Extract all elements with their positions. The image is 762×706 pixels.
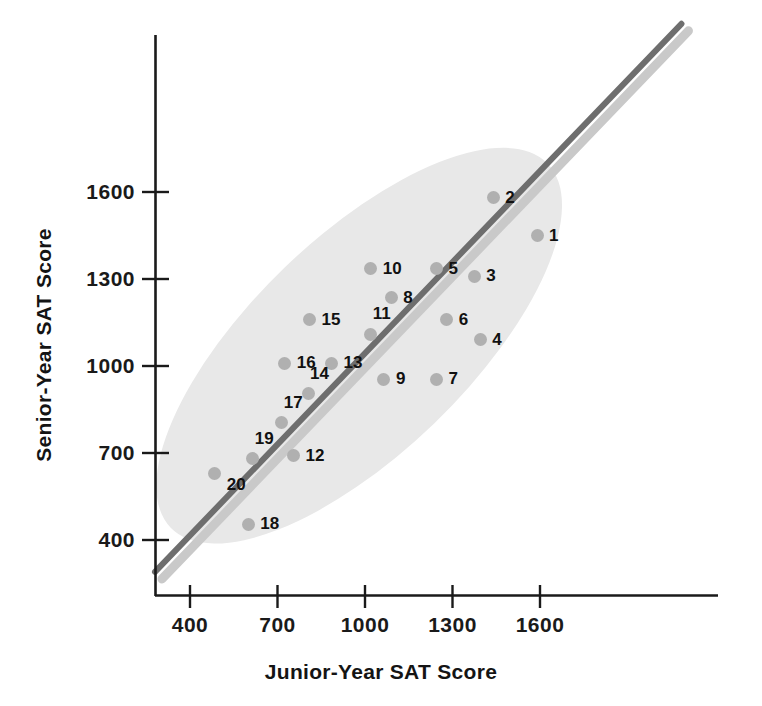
data-point <box>208 467 221 480</box>
x-axis-title: Junior-Year SAT Score <box>0 660 762 684</box>
data-point-label: 18 <box>260 514 279 534</box>
data-point <box>377 373 390 386</box>
x-tick-label: 1300 <box>402 613 502 637</box>
data-point-label: 2 <box>505 188 514 208</box>
data-point <box>468 270 481 283</box>
data-point-label: 4 <box>492 330 501 350</box>
reference-line-shadow <box>162 31 688 579</box>
x-tick-label: 1600 <box>490 613 590 637</box>
data-point <box>302 387 315 400</box>
data-point <box>531 229 544 242</box>
data-point-label: 11 <box>373 304 391 324</box>
data-point <box>385 291 398 304</box>
data-point <box>278 357 291 370</box>
data-point-label: 9 <box>396 369 405 389</box>
data-point-label: 17 <box>284 393 303 413</box>
x-tick-label: 400 <box>140 613 240 637</box>
data-point-label: 7 <box>448 369 457 389</box>
data-point-label: 1 <box>549 226 558 246</box>
data-point-label: 10 <box>383 259 402 279</box>
data-point <box>364 328 377 341</box>
y-tick-label: 400 <box>30 528 135 552</box>
data-point-label: 5 <box>448 259 457 279</box>
x-tick-label: 700 <box>227 613 327 637</box>
x-tick-label: 1000 <box>315 613 415 637</box>
data-point-label: 6 <box>459 310 468 330</box>
data-point-label: 19 <box>255 429 274 449</box>
data-point-label: 12 <box>306 446 325 466</box>
data-point-label: 13 <box>343 353 362 373</box>
data-point <box>430 373 443 386</box>
plot-canvas <box>0 0 762 706</box>
y-axis-title: Senior-Year SAT Score <box>32 195 56 495</box>
data-point-label: 8 <box>403 288 412 308</box>
data-point-label: 16 <box>297 353 316 373</box>
scatter-plot-figure: 400700100013001600 400700100013001600 12… <box>0 0 762 706</box>
data-point-label: 20 <box>227 475 246 495</box>
data-point-label: 3 <box>486 266 495 286</box>
data-point-label: 15 <box>322 310 341 330</box>
data-point <box>242 518 255 531</box>
